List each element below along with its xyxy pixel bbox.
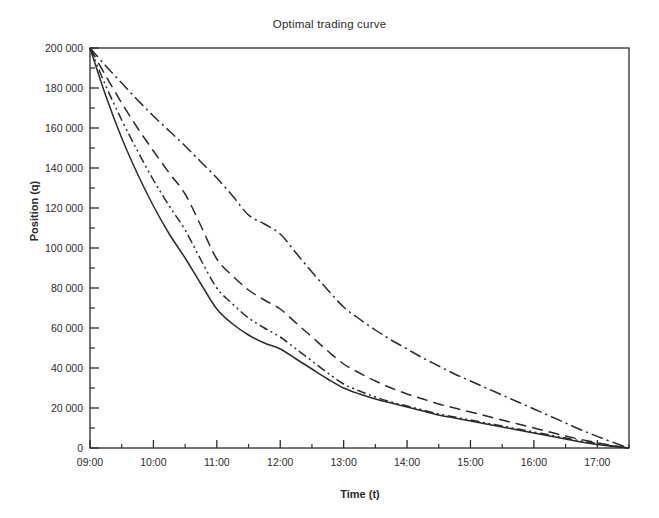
x-tick-label: 09:00	[77, 456, 103, 468]
plot-area: 09:0010:0011:0012:0013:0014:0015:0016:00…	[0, 0, 659, 518]
x-tick-label: 10:00	[140, 456, 166, 468]
x-tick-label: 11:00	[204, 456, 230, 468]
y-tick-label: 200 000	[45, 42, 83, 54]
x-tick-label: 14:00	[394, 456, 420, 468]
y-axis-ticks: 020 00040 00060 00080 000100 000120 0001…	[45, 42, 99, 454]
x-axis-ticks: 09:0010:0011:0012:0013:0014:0015:0016:00…	[77, 440, 629, 468]
y-tick-label: 180 000	[45, 82, 83, 94]
y-tick-label: 160 000	[45, 122, 83, 134]
curve-dash-dot-dot	[90, 48, 629, 448]
x-tick-label: 12:00	[267, 456, 293, 468]
x-tick-label: 15:00	[457, 456, 483, 468]
y-tick-label: 120 000	[45, 202, 83, 214]
y-tick-label: 60 000	[51, 322, 83, 334]
y-tick-label: 20 000	[51, 402, 83, 414]
data-series-group	[90, 48, 629, 448]
x-tick-label: 16:00	[521, 456, 547, 468]
curve-dash-dot	[90, 48, 629, 448]
y-tick-label: 140 000	[45, 162, 83, 174]
x-tick-label: 13:00	[331, 456, 357, 468]
y-tick-label: 0	[77, 442, 83, 454]
y-tick-label: 80 000	[51, 282, 83, 294]
y-tick-label: 40 000	[51, 362, 83, 374]
chart-figure: Optimal trading curve Position (q) Time …	[0, 0, 659, 518]
plot-frame	[90, 48, 629, 448]
y-tick-label: 100 000	[45, 242, 83, 254]
curve-dashed	[90, 48, 629, 448]
curve-solid	[90, 48, 629, 448]
x-tick-label: 17:00	[584, 456, 610, 468]
